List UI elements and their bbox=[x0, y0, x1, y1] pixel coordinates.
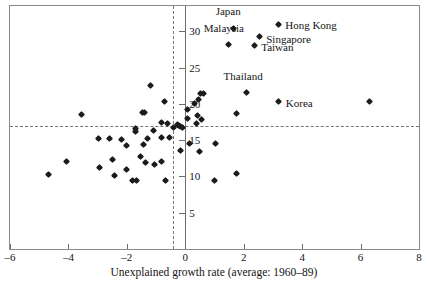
data-point bbox=[144, 134, 151, 141]
data-point-malaysia bbox=[225, 41, 232, 48]
data-point bbox=[95, 134, 102, 141]
data-point-thailand bbox=[243, 89, 250, 96]
data-point bbox=[140, 141, 147, 148]
data-point bbox=[123, 142, 130, 149]
x-axis-tick-label: 2 bbox=[241, 252, 247, 263]
data-point-hong-kong bbox=[275, 21, 282, 28]
data-point bbox=[45, 171, 52, 178]
data-label-taiwan: Taiwan bbox=[261, 41, 293, 53]
x-axis-tick-label: 0 bbox=[183, 252, 189, 263]
data-point bbox=[233, 110, 240, 117]
data-point-singapore bbox=[256, 33, 263, 40]
data-point bbox=[166, 134, 173, 141]
data-point bbox=[106, 135, 113, 142]
y-axis-tick bbox=[179, 31, 185, 32]
data-point bbox=[131, 128, 138, 135]
data-point bbox=[150, 126, 157, 133]
data-point bbox=[161, 98, 168, 105]
data-label-korea: Korea bbox=[286, 97, 313, 109]
x-axis-tick bbox=[185, 244, 186, 249]
data-point bbox=[366, 97, 373, 104]
horizontal-reference-line bbox=[10, 126, 419, 127]
x-axis-tick bbox=[68, 244, 69, 249]
data-point bbox=[158, 158, 165, 165]
data-point bbox=[212, 140, 219, 147]
scatter-plot-figure: 51015202530JapanHong KongSingaporeMalays… bbox=[0, 0, 428, 285]
data-point bbox=[142, 159, 149, 166]
x-axis-tick bbox=[302, 244, 303, 249]
data-point bbox=[110, 172, 117, 179]
data-label-thailand: Thailand bbox=[224, 70, 263, 82]
x-axis-tick bbox=[361, 244, 362, 249]
y-axis-tick bbox=[179, 68, 185, 69]
y-axis-tick-label: 5 bbox=[189, 208, 195, 219]
data-point-korea bbox=[275, 98, 282, 105]
data-label-hong-kong: Hong Kong bbox=[285, 19, 337, 31]
x-axis-tick-label: 8 bbox=[416, 252, 422, 263]
data-point bbox=[162, 177, 169, 184]
data-point bbox=[233, 170, 240, 177]
x-axis-tick-label: –2 bbox=[121, 252, 132, 263]
y-axis-tick bbox=[179, 176, 185, 177]
data-point bbox=[151, 161, 158, 168]
data-point-taiwan bbox=[251, 42, 258, 49]
y-axis-tick bbox=[179, 140, 185, 141]
data-point bbox=[123, 166, 130, 173]
data-point bbox=[211, 177, 218, 184]
data-point bbox=[176, 147, 183, 154]
x-axis-tick-label: 4 bbox=[299, 252, 305, 263]
x-axis-tick bbox=[10, 244, 11, 249]
x-axis-tick-label: –4 bbox=[63, 252, 74, 263]
data-point bbox=[196, 148, 203, 155]
plot-frame: 51015202530JapanHong KongSingaporeMalays… bbox=[9, 5, 420, 250]
data-label-japan: Japan bbox=[216, 6, 241, 17]
x-axis-tick-label: –6 bbox=[5, 252, 16, 263]
data-point bbox=[158, 134, 165, 141]
data-point bbox=[96, 164, 103, 171]
data-point bbox=[147, 82, 154, 89]
x-axis-tick bbox=[244, 244, 245, 249]
data-point bbox=[78, 111, 85, 118]
x-axis-tick-label: 6 bbox=[358, 252, 364, 263]
data-label-malaysia: Malaysia bbox=[204, 22, 244, 34]
y-axis-tick-label: 10 bbox=[189, 171, 200, 182]
y-axis-tick-label: 30 bbox=[189, 26, 200, 37]
data-point bbox=[109, 156, 116, 163]
x-axis-tick bbox=[127, 244, 128, 249]
y-axis-tick-label: 25 bbox=[189, 63, 200, 74]
y-axis-tick bbox=[179, 104, 185, 105]
y-axis-tick bbox=[179, 213, 185, 214]
data-point bbox=[137, 153, 144, 160]
x-axis-title: Unexplained growth rate (average: 1960–8… bbox=[0, 266, 428, 279]
data-point bbox=[117, 136, 124, 143]
plot-area: 51015202530JapanHong KongSingaporeMalays… bbox=[10, 6, 419, 249]
data-point bbox=[63, 158, 70, 165]
